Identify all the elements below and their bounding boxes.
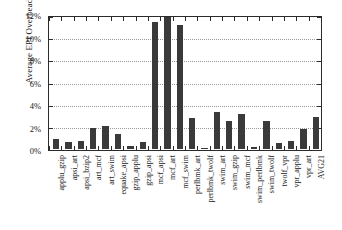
bar [140, 142, 146, 149]
x-tick-label: mcf_swim [182, 155, 190, 189]
x-tick-label: applu_gzip [58, 155, 66, 191]
y-tick-label: 0% [30, 147, 41, 156]
bar [276, 143, 282, 149]
bar [251, 147, 257, 149]
bar [300, 129, 306, 150]
bar [288, 141, 294, 149]
x-tick-label: swim_mcf [244, 155, 252, 189]
bar-chart: Average EPI Overhead 0%2%4%6%8%10%12% ap… [0, 0, 342, 230]
bar [201, 148, 207, 149]
bar [127, 146, 133, 149]
bar [313, 117, 319, 149]
bar [78, 141, 84, 149]
x-tick-label: twolf_vpr [281, 155, 289, 187]
bar [90, 128, 96, 149]
x-tick-label: gzip_apsi [145, 155, 153, 186]
x-tick-label: perlbmk_twolf [207, 155, 215, 203]
x-tick-label: vpr_art [305, 155, 313, 178]
x-tick-label: apsi_bzip2 [83, 155, 91, 190]
y-tick-label: 10% [25, 34, 41, 43]
x-tick-label: swim_perlbmk [256, 155, 264, 203]
x-tick-label: art_swim [108, 155, 116, 185]
y-tick-label: 12% [25, 12, 41, 21]
x-tick-label: mcf_art [169, 155, 177, 180]
bar [214, 112, 220, 149]
bar [238, 114, 244, 149]
bar [115, 134, 121, 149]
bar [65, 142, 71, 149]
bar [226, 121, 232, 149]
axis-tick [321, 17, 322, 21]
x-tick-label: art_mcf [95, 155, 103, 180]
axis-tick [321, 146, 322, 150]
x-tick-label: mcf_apsi [157, 155, 165, 184]
bar [102, 126, 108, 149]
x-tick-label: swim_gzip [231, 155, 239, 190]
bar [263, 121, 269, 149]
x-tick-label: swim_art [219, 155, 227, 185]
bar [152, 22, 158, 149]
y-axis-tick-labels: 0%2%4%6%8%10%12% [12, 16, 44, 151]
bar [53, 139, 59, 149]
x-tick-label: equake_apsi [120, 155, 128, 195]
bar [189, 118, 195, 149]
x-tick-label: AVG21 [318, 155, 326, 179]
x-axis-tick-labels: applu_gzipapsi_artapsi_bzip2art_mcfart_s… [48, 151, 322, 230]
x-tick-label: gzip_applu [132, 155, 140, 191]
y-tick-label: 2% [30, 124, 41, 133]
x-tick-label: swim_twolf [268, 155, 276, 193]
bar [177, 25, 183, 149]
y-tick-label: 8% [30, 57, 41, 66]
bar [164, 17, 170, 149]
y-tick-label: 6% [30, 79, 41, 88]
plot-area [48, 16, 322, 151]
x-tick-label: apsi_art [71, 155, 79, 180]
bar-series [50, 18, 320, 149]
y-tick-label: 4% [30, 102, 41, 111]
x-tick-label: vpr_applu [293, 155, 301, 187]
x-tick-label: perlbmk_art [194, 155, 202, 194]
